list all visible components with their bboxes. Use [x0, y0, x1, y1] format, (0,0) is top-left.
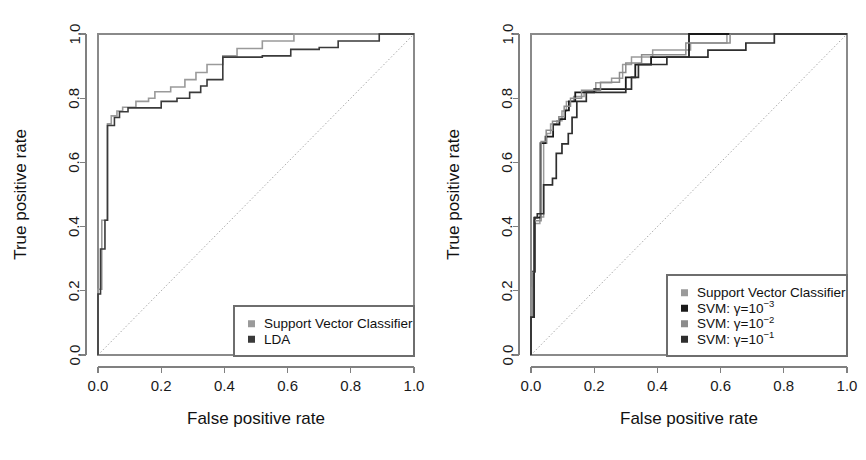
legend-label: SVM: γ=10−1 — [697, 329, 774, 347]
legend-label-exponent: −1 — [763, 329, 774, 340]
roc-panel-left: 0.00.20.40.60.81.00.00.20.40.60.81.0 Sup… — [0, 0, 433, 460]
x-axis-tick-label: 0.0 — [521, 377, 542, 394]
roc-plot-left: 0.00.20.40.60.81.00.00.20.40.60.81.0 Sup… — [0, 0, 433, 460]
roc-figure: 0.00.20.40.60.81.00.00.20.40.60.81.0 Sup… — [0, 0, 866, 460]
x-axis-tick-label: 0.6 — [277, 377, 298, 394]
y-axis-tick-label: 0.6 — [499, 152, 516, 173]
legend-marker — [248, 336, 255, 343]
y-axis-tick-label: 1.0 — [499, 24, 516, 45]
y-axis-tick-label: 0.4 — [499, 216, 516, 237]
legend-marker — [681, 305, 688, 312]
x-axis-tick-label: 0.0 — [88, 377, 109, 394]
y-axis-tick-label: 0.8 — [66, 88, 83, 109]
y-axis-title: True positive rate — [11, 129, 30, 260]
legend-marker — [248, 320, 255, 327]
x-axis-title: False positive rate — [187, 409, 325, 428]
y-axis-tick-label: 0.2 — [499, 280, 516, 301]
legend-marker — [681, 320, 688, 327]
y-axis-title: True positive rate — [444, 129, 463, 260]
x-axis-tick-label: 0.2 — [151, 377, 172, 394]
x-axis-tick-label: 1.0 — [404, 377, 425, 394]
legend-label: LDA — [264, 332, 290, 347]
x-axis-tick-label: 0.4 — [647, 377, 668, 394]
x-axis-tick-label: 0.2 — [584, 377, 605, 394]
legend-marker — [681, 289, 688, 296]
y-axis-tick-label: 0.2 — [66, 280, 83, 301]
x-axis-title: False positive rate — [620, 409, 758, 428]
y-axis-tick-label: 0.8 — [499, 88, 516, 109]
x-axis-tick-label: 0.4 — [214, 377, 235, 394]
legend-marker — [681, 336, 688, 343]
x-axis-tick-label: 0.6 — [710, 377, 731, 394]
x-axis-tick-label: 0.8 — [340, 377, 361, 394]
legend-label-exponent: −2 — [763, 313, 774, 324]
y-axis-tick-label: 0.6 — [66, 152, 83, 173]
y-axis-tick-label: 0.0 — [499, 345, 516, 366]
roc-plot-right: 0.00.20.40.60.81.00.00.20.40.60.81.0 Sup… — [433, 0, 866, 460]
y-axis-tick-label: 1.0 — [66, 24, 83, 45]
legend-label: Support Vector Classifier — [264, 316, 413, 331]
y-axis-tick-label: 0.0 — [66, 345, 83, 366]
y-axis-tick-label: 0.4 — [66, 216, 83, 237]
x-axis-tick-label: 1.0 — [837, 377, 858, 394]
roc-panel-right: 0.00.20.40.60.81.00.00.20.40.60.81.0 Sup… — [433, 0, 866, 460]
legend-label-exponent: −3 — [763, 298, 774, 309]
x-axis-tick-label: 0.8 — [773, 377, 794, 394]
